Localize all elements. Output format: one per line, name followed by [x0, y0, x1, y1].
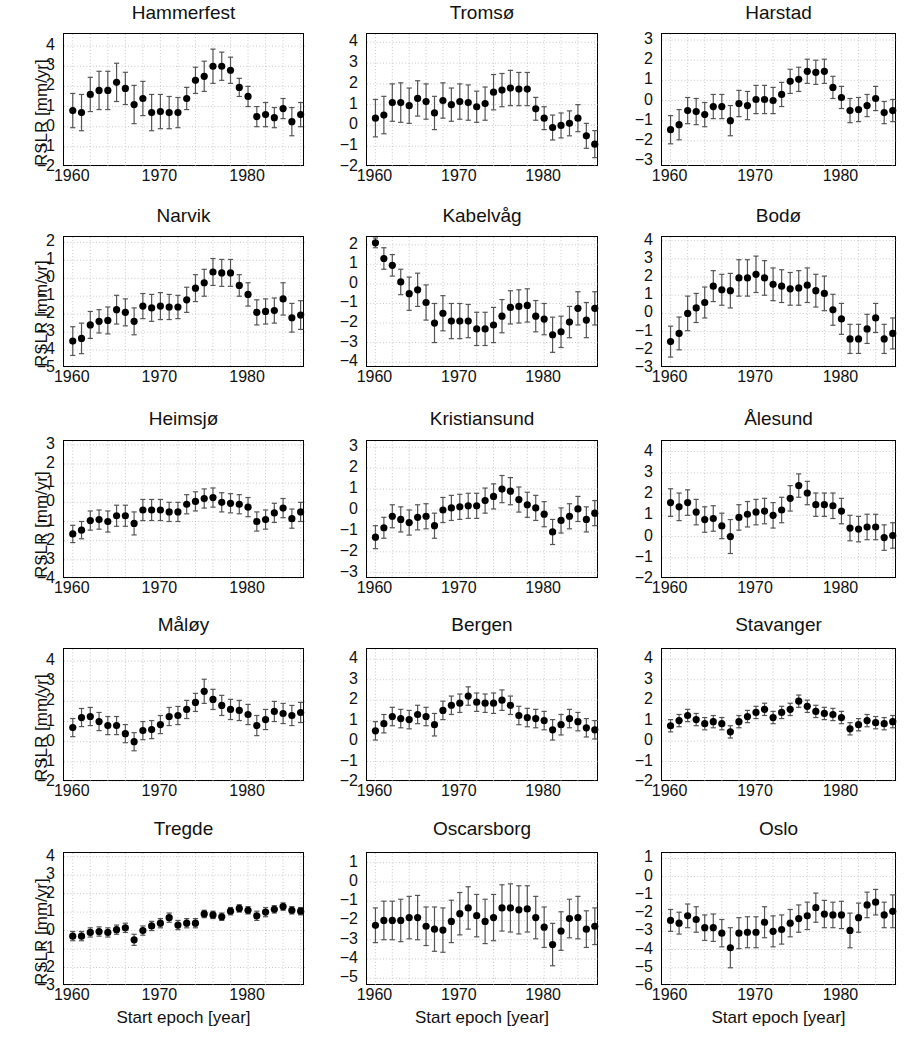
panel-troms-: Tromsø−2−101234196019701980: [0, 0, 911, 1038]
y-tick-label: −1: [320, 294, 358, 310]
y-tick-label: 3: [320, 54, 358, 70]
y-tick-label: 1: [615, 71, 653, 87]
data-point: [812, 69, 819, 76]
plot-area: [661, 440, 896, 578]
data-point: [87, 713, 94, 720]
data-point: [490, 914, 497, 921]
y-tick-label: 2: [615, 691, 653, 707]
y-tick-label: −4: [17, 570, 55, 586]
data-point: [166, 713, 173, 720]
data-point: [804, 703, 811, 710]
y-tick-label: 0: [17, 269, 55, 285]
data-point: [431, 926, 438, 933]
data-point: [812, 287, 819, 294]
data-point: [524, 85, 531, 92]
data-point: [735, 274, 742, 281]
data-point: [795, 698, 802, 705]
data-point: [490, 493, 497, 500]
y-tick-label: −4: [17, 341, 55, 357]
data-point: [227, 269, 234, 276]
y-tick-label: −2: [615, 132, 653, 148]
data-point: [795, 76, 802, 83]
y-tick-label: −3: [615, 359, 653, 375]
y-tick-label: −3: [17, 977, 55, 993]
data-point: [566, 513, 573, 520]
x-tick-label: 1970: [429, 369, 489, 385]
plot-area: [366, 440, 598, 578]
data-point: [524, 501, 531, 508]
y-tick-label: 0: [320, 275, 358, 291]
data-point: [69, 337, 76, 344]
data-point: [139, 302, 146, 309]
data-point: [541, 924, 548, 931]
data-point: [727, 533, 734, 540]
data-point: [821, 710, 828, 717]
data-point: [744, 929, 751, 936]
x-tick-label: 1970: [129, 783, 189, 799]
data-point: [829, 911, 836, 918]
y-tick-label: 0: [615, 528, 653, 544]
data-point: [675, 330, 682, 337]
panel-title: Kristiansund: [366, 408, 598, 430]
data-point: [532, 313, 539, 320]
plot-area: [366, 852, 598, 985]
plot-canvas: [367, 34, 599, 167]
y-axis-label: RSLR [mm/yr]: [32, 471, 52, 578]
data-point: [253, 912, 260, 919]
y-tick-label: 4: [17, 37, 55, 53]
data-point: [701, 516, 708, 523]
data-point: [297, 709, 304, 716]
data-point: [812, 708, 819, 715]
y-tick-label: −2: [615, 904, 653, 920]
data-point: [872, 95, 879, 102]
y-tick-label: −5: [320, 969, 358, 985]
data-point: [718, 103, 725, 110]
data-point: [872, 899, 879, 906]
data-point: [297, 908, 304, 915]
data-point: [122, 85, 129, 92]
data-point: [148, 506, 155, 513]
data-point: [380, 720, 387, 727]
y-tick-label: −1: [17, 940, 55, 956]
plot-area: [661, 648, 896, 781]
y-tick-label: 0: [615, 732, 653, 748]
y-tick-label: 0: [320, 501, 358, 517]
y-tick-label: 4: [320, 33, 358, 49]
data-point: [583, 926, 590, 933]
data-point: [787, 495, 794, 502]
data-point: [406, 716, 413, 723]
data-point: [838, 507, 845, 514]
data-point: [439, 927, 446, 934]
data-point: [414, 711, 421, 718]
data-point: [744, 713, 751, 720]
data-point: [710, 718, 717, 725]
y-tick-label: 0: [320, 873, 358, 889]
data-point: [148, 109, 155, 116]
data-point: [389, 917, 396, 924]
data-point: [244, 504, 251, 511]
data-point: [482, 100, 489, 107]
data-point: [465, 692, 472, 699]
data-point: [271, 906, 278, 913]
data-point: [490, 700, 497, 707]
data-point: [389, 513, 396, 520]
x-tick-label: 1980: [217, 168, 277, 184]
y-tick-label: −2: [17, 959, 55, 975]
data-point: [744, 102, 751, 109]
data-point: [131, 738, 138, 745]
data-point: [166, 508, 173, 515]
data-point: [397, 715, 404, 722]
data-point: [761, 507, 768, 514]
data-point: [448, 918, 455, 925]
data-point: [113, 722, 120, 729]
data-point: [253, 518, 260, 525]
panel-bergen: Bergen−2−101234196019701980: [0, 0, 911, 1038]
y-tick-label: 4: [17, 652, 55, 668]
y-tick-label: 3: [615, 31, 653, 47]
x-tick-label: 1970: [725, 168, 785, 184]
x-tick-label: 1980: [810, 580, 870, 596]
x-tick-label: 1970: [725, 369, 785, 385]
data-point: [69, 724, 76, 731]
y-tick-label: 3: [17, 672, 55, 688]
data-point: [406, 102, 413, 109]
